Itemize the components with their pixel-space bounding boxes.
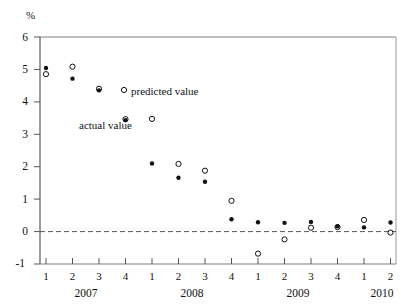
x-tick-label-2009-q3: 3: [302, 271, 320, 282]
legend-open-circle-icon: [121, 87, 126, 92]
data-point-actual-value-2008-Q3: [203, 180, 207, 184]
x-tick-label-2010-q1: 1: [355, 271, 373, 282]
data-point-predicted-value-2010-Q2: [388, 230, 393, 235]
data-markers: [43, 64, 393, 256]
data-point-predicted-value-2010-Q1: [361, 217, 366, 222]
x-tick-label-2009-q2: 2: [276, 271, 294, 282]
y-axis-unit-label: %: [26, 10, 35, 21]
data-point-actual-value-2010-Q1: [362, 225, 366, 229]
x-group-label-2009: 2009: [276, 288, 320, 300]
data-point-actual-value-2010-Q2: [388, 220, 392, 224]
data-point-predicted-value-2008-Q4: [229, 198, 234, 203]
data-point-predicted-value-2008-Q1: [149, 116, 154, 121]
x-tick-label-2007-q1: 1: [37, 271, 55, 282]
y-tick-label-neg1: -1: [3, 258, 25, 270]
x-tick-label-2007-q3: 3: [90, 271, 108, 282]
data-point-actual-value-2009-Q2: [282, 221, 286, 225]
y-tick-label-0: 0: [6, 226, 28, 238]
data-point-actual-value-2008-Q4: [229, 217, 233, 221]
x-group-label-2010: 2010: [360, 288, 404, 300]
y-tick-label-4: 4: [6, 96, 28, 108]
plot-frame: [40, 37, 396, 264]
x-group-label-2007: 2007: [64, 288, 108, 300]
data-point-actual-value-2009-Q3: [309, 220, 313, 224]
x-tick-label-2008-q3: 3: [196, 271, 214, 282]
chart-plot-area: [0, 0, 418, 304]
legend-label-actual-value: actual value: [79, 120, 132, 131]
x-tick-label-2009-q1: 1: [249, 271, 267, 282]
data-point-predicted-value-2007-Q2: [70, 64, 75, 69]
data-point-predicted-value-2007-Q1: [43, 72, 48, 77]
x-axis-ticks: [46, 258, 391, 264]
x-group-label-2008: 2008: [170, 288, 214, 300]
data-point-actual-value-2009-Q1: [256, 220, 260, 224]
x-tick-label-2008-q4: 4: [223, 271, 241, 282]
x-tick-label-2009-q4: 4: [329, 271, 347, 282]
x-tick-label-2010-q2: 2: [382, 271, 400, 282]
y-tick-label-2: 2: [6, 161, 28, 173]
data-point-predicted-value-2009-Q3: [308, 225, 313, 230]
x-tick-label-2008-q1: 1: [143, 271, 161, 282]
y-tick-label-5: 5: [6, 64, 28, 76]
x-tick-label-2008-q2: 2: [170, 271, 188, 282]
data-point-actual-value-2007-Q2: [70, 76, 74, 80]
x-tick-label-2007-q2: 2: [64, 271, 82, 282]
y-tick-label-3: 3: [6, 129, 28, 141]
legend-label-predicted-value: predicted value: [131, 86, 199, 97]
data-point-actual-value-2008-Q2: [176, 176, 180, 180]
data-point-predicted-value-2009-Q2: [282, 237, 287, 242]
data-point-predicted-value-2009-Q1: [255, 251, 260, 256]
data-point-predicted-value-2008-Q3: [202, 168, 207, 173]
y-axis-ticks: [34, 37, 40, 264]
y-tick-label-1: 1: [6, 194, 28, 206]
chart-container: % 6 5 4 3 2 1 0 -1 1 2 3 4 1 2 3 4 1 2 3…: [0, 0, 418, 304]
data-point-actual-value-2007-Q1: [44, 66, 48, 70]
data-point-actual-value-2008-Q1: [150, 161, 154, 165]
data-point-predicted-value-2008-Q2: [176, 161, 181, 166]
y-tick-label-6: 6: [6, 32, 28, 44]
x-tick-label-2007-q4: 4: [117, 271, 135, 282]
